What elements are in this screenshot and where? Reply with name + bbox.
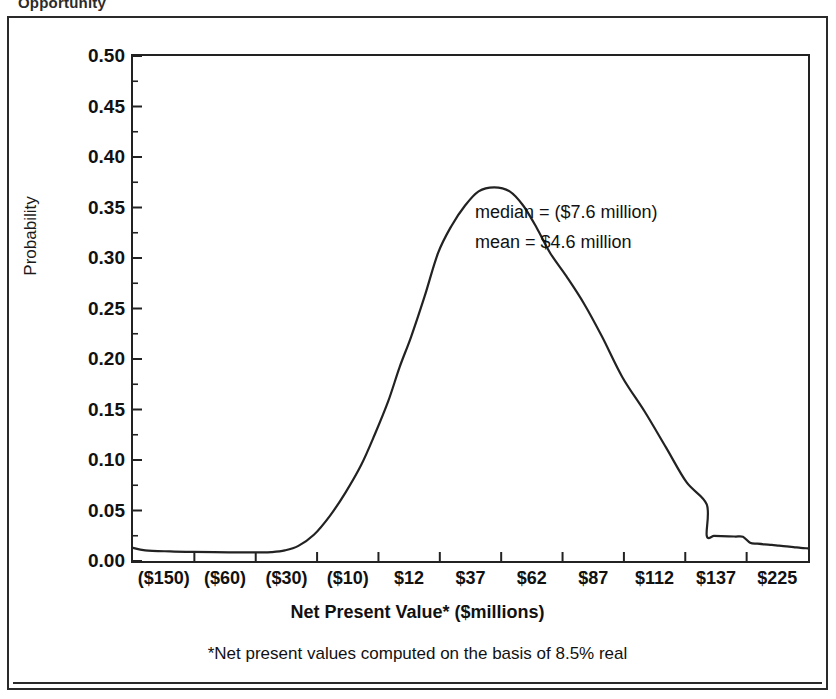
y-tick-label: 0.15 bbox=[65, 399, 125, 421]
y-tick-label: 0.30 bbox=[65, 247, 125, 269]
x-tick-label: $87 bbox=[578, 568, 608, 589]
y-axis-title: Probability bbox=[21, 136, 41, 336]
figure-container: 0.500.450.400.350.300.250.200.150.100.05… bbox=[7, 16, 828, 690]
x-tick-label: $112 bbox=[635, 568, 674, 589]
y-tick-label: 0.20 bbox=[65, 348, 125, 370]
x-tick-label: $62 bbox=[517, 568, 547, 589]
y-tick-label: 0.45 bbox=[65, 96, 125, 118]
x-tick-label: $137 bbox=[696, 568, 736, 589]
y-tick-label: 0.35 bbox=[65, 197, 125, 219]
x-tick-marks bbox=[194, 552, 746, 561]
footnote-separator bbox=[13, 682, 822, 684]
annotation-median: median = ($7.6 million) bbox=[475, 202, 658, 223]
distribution-curve-svg bbox=[133, 56, 808, 561]
cut-off-heading: Opportunity bbox=[18, 0, 106, 11]
y-tick-label: 0.05 bbox=[65, 500, 125, 522]
y-tick-marks bbox=[133, 56, 142, 561]
x-axis-title: Net Present Value* ($millions) bbox=[7, 602, 828, 623]
x-tick-label: ($150) bbox=[138, 568, 190, 589]
x-tick-label: ($60) bbox=[204, 568, 246, 589]
x-tick-label: $225 bbox=[757, 568, 797, 589]
y-tick-label: 0.50 bbox=[65, 45, 125, 67]
y-tick-label: 0.40 bbox=[65, 146, 125, 168]
figure-footnote: *Net present values computed on the basi… bbox=[7, 644, 828, 664]
y-tick-label: 0.25 bbox=[65, 298, 125, 320]
annotation-mean: mean = $4.6 million bbox=[475, 232, 632, 253]
y-tick-label: 0.10 bbox=[65, 449, 125, 471]
x-tick-label: ($30) bbox=[265, 568, 307, 589]
probability-density-curve bbox=[133, 187, 808, 552]
x-tick-label: ($10) bbox=[327, 568, 369, 589]
x-tick-label: $37 bbox=[455, 568, 485, 589]
x-tick-label: $12 bbox=[394, 568, 424, 589]
plot-area bbox=[131, 54, 810, 563]
y-tick-label: 0.00 bbox=[65, 550, 125, 572]
